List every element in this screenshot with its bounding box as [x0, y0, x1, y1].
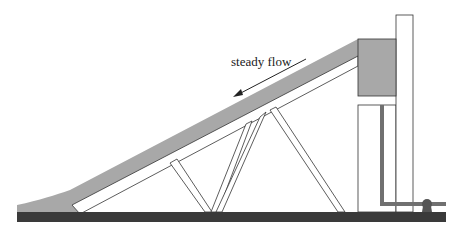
truss-strut-4 — [270, 107, 345, 212]
valve-base — [422, 206, 432, 212]
support-box — [358, 105, 396, 212]
flow-diagram — [0, 0, 465, 235]
tall-column — [396, 15, 413, 212]
ground — [17, 212, 446, 222]
water-film — [17, 39, 396, 214]
arrowhead-icon — [233, 89, 243, 97]
flow-label: steady flow — [231, 54, 291, 70]
truss-strut-1 — [170, 159, 212, 212]
slope-plate — [72, 56, 358, 214]
reservoir — [358, 39, 396, 96]
